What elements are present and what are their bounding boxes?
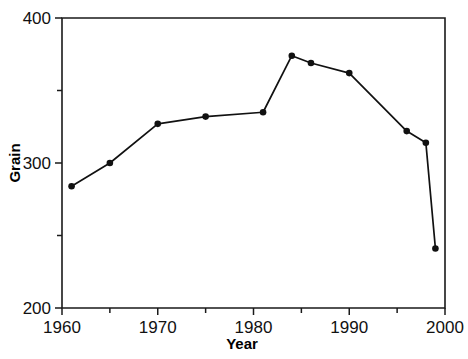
series-line-grain xyxy=(72,56,436,249)
data-point-marker xyxy=(68,183,75,190)
x-tick-label: 1990 xyxy=(330,318,368,337)
x-tick-label: 1960 xyxy=(43,318,81,337)
x-axis-ticks xyxy=(62,308,445,315)
chart-canvas: 200300400 19601970198019902000 Grain Yea… xyxy=(0,0,468,359)
plot-frame xyxy=(62,18,445,308)
y-tick-label: 400 xyxy=(23,9,51,28)
y-axis-title: Grain xyxy=(6,143,23,182)
data-point-marker xyxy=(107,160,114,167)
data-point-marker xyxy=(260,109,267,116)
axis-frame-path xyxy=(62,18,445,308)
data-point-marker xyxy=(403,128,410,135)
grain-year-line-chart: 200300400 19601970198019902000 Grain Yea… xyxy=(0,0,468,359)
x-tick-label: 1970 xyxy=(139,318,177,337)
data-series-grain xyxy=(68,52,438,251)
data-point-marker xyxy=(202,113,209,120)
y-tick-label: 200 xyxy=(23,299,51,318)
x-tick-label: 2000 xyxy=(426,318,464,337)
data-point-marker xyxy=(308,60,315,67)
data-point-marker xyxy=(289,52,296,59)
y-tick-label: 300 xyxy=(23,154,51,173)
data-point-marker xyxy=(423,139,430,146)
y-axis-tick-labels: 200300400 xyxy=(23,9,51,318)
data-point-marker xyxy=(432,245,439,252)
data-point-marker xyxy=(154,121,161,128)
data-point-marker xyxy=(346,70,353,77)
y-axis-ticks xyxy=(55,18,62,308)
x-axis-title: Year xyxy=(226,335,258,352)
